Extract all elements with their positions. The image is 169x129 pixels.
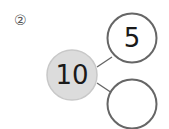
- connector-line-bottom: [97, 83, 112, 93]
- part-circle-top: 5: [108, 14, 157, 63]
- part-circle-bottom[interactable]: [108, 80, 157, 129]
- whole-circle: 10: [47, 50, 97, 100]
- number-bond-diagram: 10 5: [0, 0, 169, 129]
- part-value-top: 5: [124, 23, 141, 53]
- connector-line-top: [97, 57, 112, 67]
- whole-value: 10: [55, 60, 88, 90]
